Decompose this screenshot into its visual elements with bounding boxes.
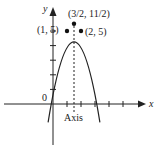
point-vertex [72, 22, 76, 26]
y-axis-label: y [42, 3, 48, 14]
point-right [79, 29, 83, 33]
parabola-diagram: y x 0 (3/2, 11/2) (1, 5) (2, 5) Axis [0, 0, 158, 148]
axis-of-symmetry-label: Axis [64, 112, 83, 123]
x-axis-arrow-icon [138, 101, 146, 108]
x-axis-label: x [148, 98, 154, 109]
origin-label: 0 [42, 92, 47, 103]
vertex-label: (3/2, 11/2) [68, 8, 110, 20]
left-point-label: (1, 5) [37, 24, 59, 36]
right-point-label: (2, 5) [85, 26, 107, 38]
y-axis-arrow-icon [50, 7, 57, 16]
point-left [65, 29, 69, 33]
